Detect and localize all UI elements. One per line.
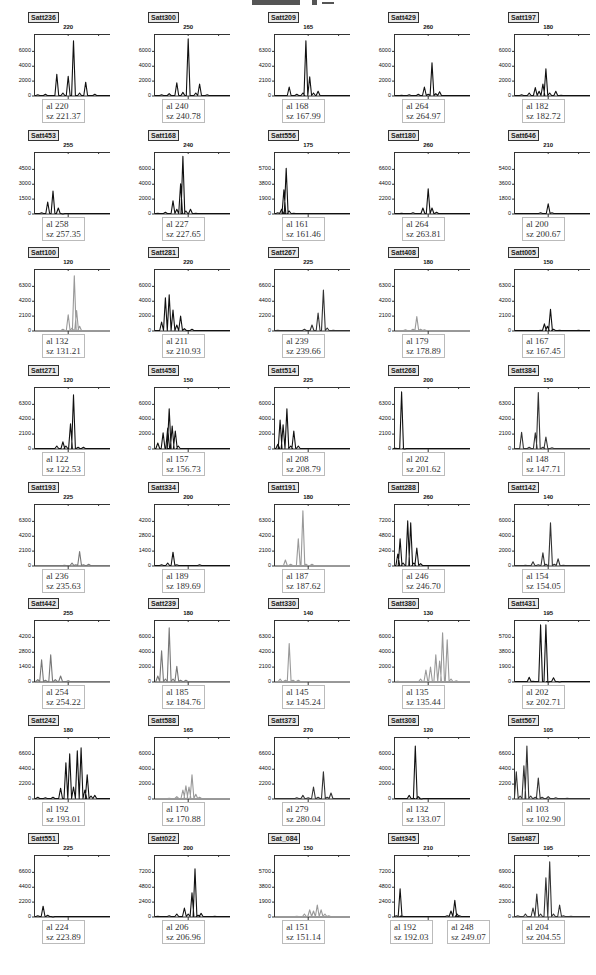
y-axis-tick-label: 1900 — [487, 663, 511, 669]
top-axis-tick-label: 260 — [423, 142, 433, 148]
top-axis-tick-label: 140 — [543, 494, 553, 500]
y-axis-tick-label: 6000 — [127, 633, 151, 639]
y-axis-tick-label: 2100 — [7, 430, 31, 436]
electropherogram-plot — [274, 504, 350, 566]
allele-call-box: al 258sz 257.35 — [42, 217, 85, 241]
signal-trace — [395, 63, 470, 96]
y-axis-tick-label: 4000 — [127, 765, 151, 771]
chromatogram-panel: Satt2812200200040006000al 211sz 210.93 — [128, 247, 246, 362]
signal-trace — [155, 775, 230, 799]
chromatogram-panel: Satt5142250200040006000al 208sz 208.79 — [248, 365, 366, 480]
size-value: sz 102.90 — [526, 814, 561, 824]
size-value: sz 239.66 — [286, 346, 321, 356]
top-axis-tick-label: 200 — [183, 494, 193, 500]
top-axis-tick-label: 250 — [183, 24, 193, 30]
size-value: sz 151.14 — [286, 932, 321, 942]
y-axis-tick-label: 6300 — [7, 400, 31, 406]
y-axis-tick-label: 2000 — [127, 77, 151, 83]
electropherogram-plot — [394, 387, 470, 449]
y-axis-tick-label: 3800 — [247, 180, 271, 186]
top-axis-tick-label: 225 — [303, 259, 313, 265]
top-axis-tick-label: 150 — [183, 377, 193, 383]
chromatogram-panel: Satt3342000140028004200al 189sz 189.69 — [128, 482, 246, 597]
y-axis-tick-label: 3600 — [487, 180, 511, 186]
y-axis-tick-label: 0 — [487, 445, 511, 451]
allele-value: al 148 — [526, 454, 561, 464]
allele-value: al 279 — [286, 804, 321, 814]
y-axis-tick-label: 4200 — [487, 415, 511, 421]
y-axis-tick-label: 4600 — [487, 883, 511, 889]
size-value: sz 178.89 — [406, 346, 441, 356]
allele-value: al 179 — [406, 336, 441, 346]
top-axis-tick-label: 105 — [543, 727, 553, 733]
signal-trace — [275, 772, 350, 799]
electropherogram-plot — [394, 620, 470, 682]
y-axis-tick-label: 0 — [487, 327, 511, 333]
chromatogram-panel: Sat_0841500190038005700al 151sz 151.14 — [248, 833, 366, 948]
signal-trace — [515, 69, 590, 96]
y-axis-tick-label: 1500 — [7, 195, 31, 201]
signal-trace — [35, 655, 110, 682]
allele-value: al 182 — [526, 101, 561, 111]
y-axis-tick-label: 4000 — [127, 297, 151, 303]
chromatogram-panel: Satt5561750190038005700al 161sz 161.46 — [248, 130, 366, 245]
y-axis-tick-label: 4400 — [247, 765, 271, 771]
chromatogram-panel: Satt3801300200040006000al 135sz 135.44 — [368, 598, 486, 713]
y-axis-tick-label: 0 — [367, 678, 391, 684]
y-axis-tick-label: 0 — [7, 678, 31, 684]
size-value: sz 204.55 — [526, 932, 561, 942]
electropherogram-plot — [274, 387, 350, 449]
marker-label: Satt300 — [148, 12, 179, 23]
header-fragment-block — [252, 0, 300, 5]
marker-label: Satt373 — [268, 715, 299, 726]
top-cropped-header — [252, 0, 352, 6]
y-axis-tick-label: 2800 — [127, 532, 151, 538]
allele-value: al 192 — [394, 922, 429, 932]
marker-label: Satt239 — [148, 598, 179, 609]
y-axis-tick-label: 2000 — [127, 780, 151, 786]
signal-trace — [155, 552, 230, 565]
top-axis-tick-label: 150 — [543, 259, 553, 265]
marker-label: Satt308 — [388, 715, 419, 726]
allele-value: al 202 — [406, 454, 441, 464]
top-axis-tick-label: 130 — [423, 610, 433, 616]
allele-call-box: al 132sz 131.21 — [42, 334, 85, 358]
y-axis-tick-label: 6000 — [127, 47, 151, 53]
allele-call-box: al 179sz 178.89 — [402, 334, 445, 358]
y-axis-tick-label: 6600 — [7, 750, 31, 756]
top-axis-tick-label: 240 — [183, 142, 193, 148]
allele-call-box: al 206sz 206.96 — [162, 920, 205, 944]
marker-label: Satt242 — [28, 715, 59, 726]
y-axis-tick-label: 0 — [367, 327, 391, 333]
marker-label: Satt514 — [268, 365, 299, 376]
marker-label: Satt588 — [148, 715, 179, 726]
top-axis-tick-label: 180 — [543, 24, 553, 30]
y-axis-tick-label: 1800 — [487, 195, 511, 201]
chromatogram-panel: Satt2391800200040006000al 185sz 184.76 — [128, 598, 246, 713]
y-axis-tick-label: 2000 — [127, 663, 151, 669]
signal-trace — [395, 746, 470, 799]
signal-trace — [275, 290, 350, 330]
top-axis-tick-label: 200 — [183, 845, 193, 851]
allele-call-box: al 151sz 151.14 — [282, 920, 325, 944]
y-axis-tick-label: 0 — [487, 678, 511, 684]
signal-trace — [155, 869, 230, 917]
marker-label: Satt168 — [148, 130, 179, 141]
chromatogram-panel: Satt1911800210042006300al 187sz 187.62 — [248, 482, 366, 597]
electropherogram-plot — [514, 387, 590, 449]
signal-trace — [35, 191, 110, 214]
chromatogram-panel: Satt3452100240048007200al 192sz 192.03al… — [368, 833, 486, 948]
y-axis-tick-label: 7200 — [127, 868, 151, 874]
allele-value: al 220 — [46, 101, 81, 111]
allele-value: al 236 — [46, 571, 81, 581]
y-axis-tick-label: 4800 — [367, 883, 391, 889]
size-value: sz 201.62 — [406, 464, 441, 474]
y-axis-tick-label: 6300 — [7, 517, 31, 523]
y-axis-tick-label: 4800 — [367, 532, 391, 538]
size-value: sz 192.03 — [394, 932, 429, 942]
y-axis-tick-label: 4000 — [127, 415, 151, 421]
y-axis-tick-label: 4000 — [367, 648, 391, 654]
allele-value: al 145 — [286, 687, 321, 697]
top-axis-tick-label: 180 — [303, 494, 313, 500]
top-axis-tick-label: 270 — [303, 727, 313, 733]
